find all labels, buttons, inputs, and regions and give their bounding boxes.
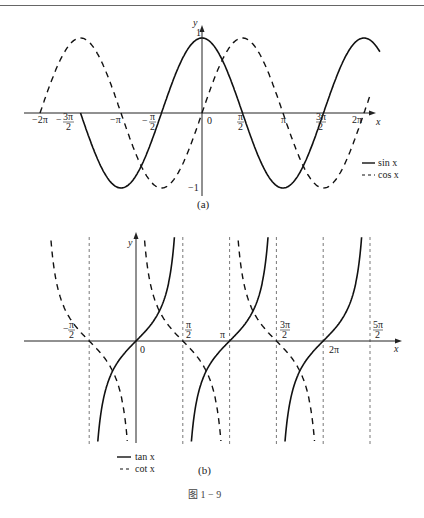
tick-neg-3pi2-den: 2 [66, 121, 71, 132]
tick-neg-2pi: −2π [32, 114, 48, 125]
x-axis-label-a: x [375, 116, 381, 127]
tick-neg-1: −1 [188, 182, 199, 193]
tick-b-neg-pi2-num: π [69, 319, 74, 330]
tick-b-5pi2-den: 2 [375, 329, 380, 340]
tick-neg-pi2-den: 2 [150, 121, 155, 132]
figure-caption: 图 1 − 9 [188, 486, 221, 501]
tick-b-neg-pi2-den: 2 [69, 329, 74, 340]
axes-b [24, 232, 402, 443]
tick-2pi: 2π [352, 114, 362, 125]
tick-zero-a: 0 [207, 115, 212, 126]
tick-3pi2-den: 2 [318, 121, 323, 132]
tick-b-2pi: 2π [329, 344, 339, 355]
tan-curve [98, 237, 362, 441]
legend-cot: cot x [135, 463, 155, 474]
tick-b-pi: π [220, 329, 225, 340]
tick-neg-3pi2-sign: − [56, 114, 62, 125]
tick-neg-pi2-sign: − [142, 115, 148, 126]
tick-b-pi2-num: π [186, 319, 191, 330]
cot-curve [51, 241, 315, 442]
tick-b-3pi2-den: 2 [282, 329, 287, 340]
legend-cos: cos x [378, 169, 399, 180]
tick-1: 1 [196, 27, 201, 38]
asymptotes-b [89, 237, 370, 444]
y-axis-label-b: y [127, 237, 133, 248]
legend-b: tan x cot x [117, 451, 155, 474]
x-axis-label-b: x [393, 343, 399, 354]
tick-neg-pi: −π [110, 114, 121, 125]
tick-pi: π [281, 114, 286, 125]
legend-sin: sin x [378, 157, 397, 168]
tick-b-zero: 0 [140, 344, 145, 355]
tick-b-3pi2-num: 3π [280, 319, 290, 330]
caption-a: (a) [197, 198, 209, 210]
tick-b-5pi2-num: 5π [373, 319, 383, 330]
tick-b-neg-pi2-sign: − [63, 323, 69, 334]
tick-b-pi2-den: 2 [186, 329, 191, 340]
caption-b: (b) [198, 464, 211, 476]
chart-panel-a: y x 1 −1 −2π − 3π 2 −π − π 2 0 π 2 π 3π … [0, 0, 424, 215]
tick-pi2-den: 2 [238, 121, 243, 132]
legend-a: sin x cos x [362, 157, 399, 180]
legend-tan: tan x [135, 451, 155, 462]
